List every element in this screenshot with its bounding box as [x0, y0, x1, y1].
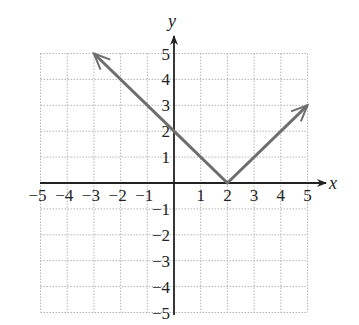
- x-tick-label: 4: [277, 186, 286, 205]
- x-tick-label: 3: [250, 186, 259, 205]
- x-axis-label: x: [328, 173, 337, 193]
- x-tick-label: 2: [223, 186, 232, 205]
- y-tick-label: 5: [162, 45, 171, 64]
- y-tick-label: 3: [162, 96, 171, 115]
- x-tick-label: 1: [196, 186, 205, 205]
- x-tick-labels: −5−4−3−2−112345: [28, 186, 311, 205]
- y-tick-label: −2: [152, 226, 170, 245]
- x-tick-label: −3: [82, 186, 100, 205]
- y-tick-label: −4: [152, 278, 171, 297]
- x-tick-label: −2: [109, 186, 127, 205]
- y-tick-label: 4: [162, 70, 171, 89]
- x-tick-label: −1: [135, 186, 153, 205]
- x-tick-label: −4: [55, 186, 74, 205]
- y-tick-label: −1: [152, 200, 170, 219]
- y-axis-label: y: [166, 11, 176, 31]
- coordinate-plane: x y −5−4−3−2−112345 54321−1−2−3−4−5: [0, 0, 359, 325]
- x-tick-label: 5: [303, 186, 312, 205]
- y-tick-label: −3: [152, 252, 170, 271]
- y-tick-label: −5: [152, 304, 170, 323]
- y-tick-label: 1: [162, 148, 171, 167]
- x-tick-label: −5: [28, 186, 46, 205]
